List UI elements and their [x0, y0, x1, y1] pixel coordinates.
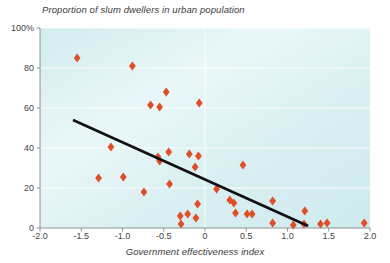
- y-axis-tick-label: 40: [0, 143, 34, 153]
- x-axis-tick-label: -2.0: [20, 231, 60, 241]
- x-axis-tick-label: 2.0: [350, 231, 390, 241]
- x-axis-title: Government effectiveness index: [0, 246, 390, 257]
- x-axis-tick-label: -0.5: [144, 231, 184, 241]
- x-axis-tick-label: -1.0: [103, 231, 143, 241]
- x-axis-tick-label: -1.5: [61, 231, 101, 241]
- y-axis-tick-label: 80: [0, 63, 34, 73]
- scatter-plot-canvas: [0, 0, 390, 263]
- y-axis-tick-label: 20: [0, 183, 34, 193]
- chart-figure: Proportion of slum dwellers in urban pop…: [0, 0, 390, 263]
- x-axis-tick-label: 1.5: [309, 231, 349, 241]
- y-axis-tick-label: 100%: [0, 23, 34, 33]
- x-axis-tick-label: 0: [185, 231, 225, 241]
- x-axis-tick-label: 1.0: [268, 231, 308, 241]
- y-axis-tick-label: 60: [0, 103, 34, 113]
- x-axis-tick-label: 0.5: [226, 231, 266, 241]
